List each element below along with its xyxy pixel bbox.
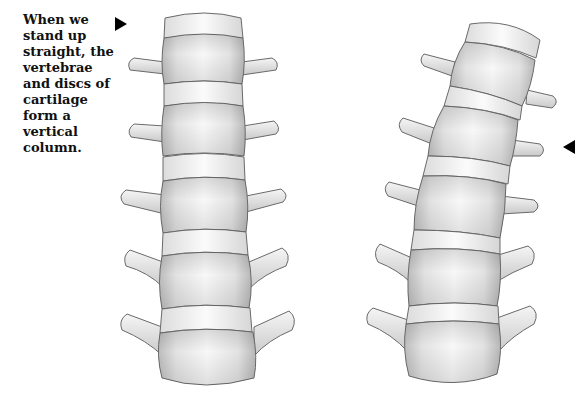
spine-illustrations (0, 0, 585, 399)
curved-spine (367, 23, 556, 383)
spine-diagram: When we stand up straight, the vertebrae… (0, 0, 585, 399)
straight-spine (121, 13, 295, 385)
